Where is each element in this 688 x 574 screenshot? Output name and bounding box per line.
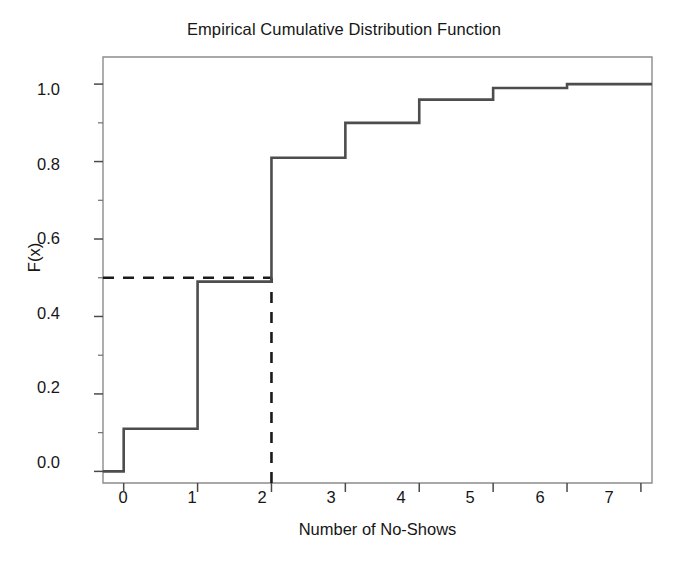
y-axis-minor-ticks	[98, 123, 103, 433]
x-axis-major-ticks	[124, 483, 641, 492]
plot-area	[0, 0, 688, 574]
axis-frame	[103, 57, 652, 483]
ecdf-figure: Empirical Cumulative Distribution Functi…	[0, 0, 688, 574]
